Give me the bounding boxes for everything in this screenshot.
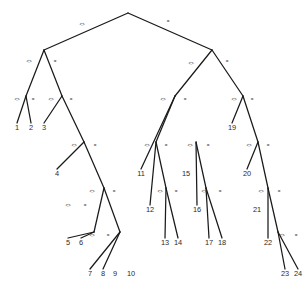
leaf-label-13: 13 xyxy=(161,238,169,247)
leaf-label-19: 19 xyxy=(228,123,236,132)
edge-label-left: <> xyxy=(72,143,77,148)
leaf-label-18: 18 xyxy=(218,238,226,247)
leaf-label-9: 9 xyxy=(113,269,117,278)
leaf-label-20: 20 xyxy=(243,169,251,178)
edge-label-left: <> xyxy=(247,143,252,148)
edge-label-left: <> xyxy=(202,189,207,194)
leaf-label-22: 22 xyxy=(264,238,272,247)
edge-label-left: <> xyxy=(27,59,32,64)
edge-label-left: <> xyxy=(161,97,166,102)
leaf-label-24: 24 xyxy=(294,269,302,278)
leaf-label-23: 23 xyxy=(281,269,289,278)
leaf-label-4: 4 xyxy=(55,169,59,178)
edge-label-left: <> xyxy=(49,97,54,102)
leaf-label-5: 5 xyxy=(66,238,70,247)
edge-label-left: <> xyxy=(188,143,193,148)
leaf-label-21: 21 xyxy=(253,205,261,214)
leaf-label-14: 14 xyxy=(174,238,182,247)
edge-label-left: <> xyxy=(66,203,71,208)
leaf-label-17: 17 xyxy=(205,238,213,247)
diagram-background xyxy=(0,0,307,297)
edge-label-left: <> xyxy=(80,22,85,27)
edge-label-left: <> xyxy=(189,61,194,66)
edge-label-left: <> xyxy=(90,233,95,238)
leaf-label-15: 15 xyxy=(182,169,190,178)
leaf-label-6: 6 xyxy=(79,238,83,247)
leaf-label-2: 2 xyxy=(29,123,33,132)
edge-label-left: <> xyxy=(232,97,237,102)
edge-label-left: <> xyxy=(158,189,163,194)
leaf-label-12: 12 xyxy=(146,205,154,214)
leaf-label-11: 11 xyxy=(137,169,145,178)
leaf-label-16: 16 xyxy=(193,205,201,214)
edge-label-left: <> xyxy=(280,233,285,238)
leaf-label-8: 8 xyxy=(101,269,105,278)
leaf-label-3: 3 xyxy=(42,123,46,132)
edge-label-left: <> xyxy=(145,143,150,148)
decision-tree-diagram: <>=<>=<>=<>=<>=<>=<>=<>=<>=<>=<>=<>=<>=<… xyxy=(0,0,307,297)
edge-label-left: <> xyxy=(259,189,264,194)
leaf-label-1: 1 xyxy=(15,123,19,132)
edge-label-left: <> xyxy=(15,97,20,102)
edge-label-left: <> xyxy=(90,189,95,194)
leaf-label-10: 10 xyxy=(127,269,135,278)
leaf-label-7: 7 xyxy=(88,269,92,278)
